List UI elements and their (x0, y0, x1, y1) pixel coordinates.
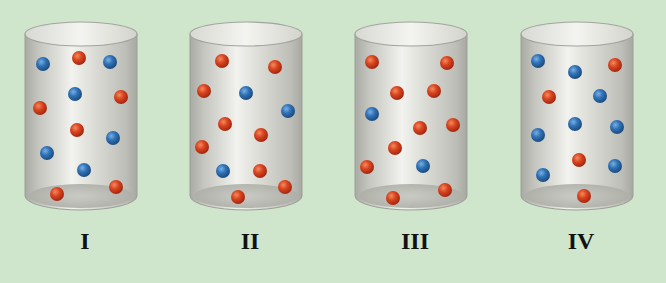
diagram: I II III IV (0, 0, 666, 283)
cylinder-label: III (330, 228, 500, 255)
cylinder-iii: III (330, 0, 500, 283)
cylinder-iv: IV (496, 0, 666, 283)
cylinder-i: I (0, 0, 170, 283)
cylinder-label: II (165, 228, 335, 255)
cylinder-label: IV (496, 228, 666, 255)
cylinder-label: I (0, 228, 170, 255)
cylinder-ii: II (165, 0, 335, 283)
